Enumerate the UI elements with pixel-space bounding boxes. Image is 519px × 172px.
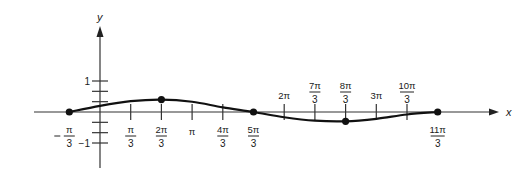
svg-text:3: 3 <box>220 138 226 149</box>
x-tick-label: 7π3 <box>309 80 321 105</box>
x-tick-label: π <box>189 126 196 137</box>
data-point <box>342 118 349 125</box>
x-tick-label: 8π3 <box>340 80 352 105</box>
y-axis-label: y <box>96 11 104 23</box>
svg-text:2π: 2π <box>278 90 290 101</box>
svg-text:3: 3 <box>343 94 349 105</box>
y-tick-label: 1 <box>84 76 90 87</box>
svg-text:3: 3 <box>435 138 441 149</box>
svg-text:3: 3 <box>159 138 165 149</box>
data-point <box>250 108 257 115</box>
x-tick-label: 3π <box>370 90 382 101</box>
y-axis-arrow-icon <box>97 26 104 37</box>
x-tick-label: 2π <box>278 90 290 101</box>
x-tick-label: 2π3 <box>155 124 167 149</box>
svg-text:3: 3 <box>312 94 318 105</box>
svg-text:π: π <box>127 124 134 135</box>
x-tick-label: 4π3 <box>217 124 229 149</box>
y-tick-label: −1 <box>79 138 91 149</box>
x-axis-arrow-icon <box>489 109 499 116</box>
svg-text:2π: 2π <box>155 124 167 135</box>
svg-text:11π: 11π <box>429 124 446 135</box>
x-tick-label: 11π3 <box>429 124 446 149</box>
x-tick-label: 10π3 <box>398 80 416 105</box>
data-point <box>66 108 73 115</box>
svg-text:10π: 10π <box>398 80 416 91</box>
data-point <box>158 96 165 103</box>
x-tick-label: π3 <box>125 124 136 149</box>
svg-text:π: π <box>66 124 73 135</box>
svg-text:3: 3 <box>404 94 410 105</box>
svg-text:3π: 3π <box>370 90 382 101</box>
svg-text:7π: 7π <box>309 80 321 91</box>
x-axis-label: x <box>505 106 512 118</box>
svg-text:π: π <box>189 126 196 137</box>
svg-text:8π: 8π <box>340 80 352 91</box>
sinusoid-plot: xy 1−1π3π32π3π4π35π32π7π38π33π10π311π3 <box>0 0 519 172</box>
marked-points <box>66 96 442 125</box>
svg-text:4π: 4π <box>217 124 229 135</box>
data-point <box>434 108 441 115</box>
svg-text:5π: 5π <box>248 124 260 135</box>
svg-text:3: 3 <box>251 138 257 149</box>
svg-text:3: 3 <box>67 138 73 149</box>
x-tick-label: π3 <box>54 124 75 149</box>
x-tick-label: 5π3 <box>248 124 260 149</box>
svg-text:3: 3 <box>128 138 134 149</box>
